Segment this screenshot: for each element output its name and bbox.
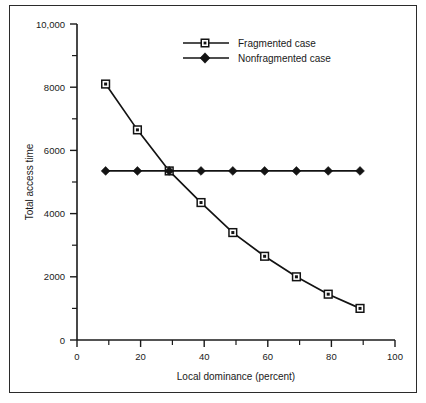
y-ticklabel: 6000	[44, 145, 65, 156]
x-axis-title: Local dominance (percent)	[177, 371, 295, 382]
diamond-marker-icon	[356, 167, 365, 176]
x-ticklabels: 0 20 40 60 80 100	[74, 351, 403, 362]
square-dot-marker-icon-dot	[204, 42, 207, 45]
square-dot-marker-icon-dot	[327, 293, 330, 296]
x-ticklabel: 0	[74, 351, 79, 362]
legend-entry-nonfragmented: Nonfragmented case	[183, 53, 331, 64]
diamond-marker-icon	[324, 167, 333, 176]
square-dot-marker-icon-dot	[231, 231, 234, 234]
x-ticklabel: 20	[135, 351, 146, 362]
chart-canvas: 0 2000 4000 6000 8000 10,000 0 20 40 60 …	[0, 0, 426, 403]
square-dot-marker-icon-dot	[359, 307, 362, 310]
diamond-marker-icon	[197, 167, 206, 176]
y-ticklabel: 0	[60, 335, 65, 346]
y-ticklabel: 10,000	[36, 19, 65, 30]
figure-container: 0 2000 4000 6000 8000 10,000 0 20 40 60 …	[0, 0, 426, 403]
legend-label-nonfragmented: Nonfragmented case	[238, 53, 331, 64]
series-fragmented	[101, 79, 365, 313]
diamond-marker-icon	[260, 167, 269, 176]
square-dot-marker-icon-dot	[295, 275, 298, 278]
square-dot-marker-icon-dot	[200, 201, 203, 204]
y-ticklabel: 2000	[44, 271, 65, 282]
square-dot-marker-icon-dot	[104, 83, 107, 86]
axes-group	[77, 24, 395, 340]
y-ticklabel: 8000	[44, 82, 65, 93]
x-ticklabel: 80	[326, 351, 337, 362]
series-layer	[101, 79, 365, 313]
series-nonfragmented	[101, 167, 364, 176]
square-dot-marker-icon-dot	[136, 128, 139, 131]
square-dot-marker-icon-dot	[263, 255, 266, 258]
y-ticklabel: 4000	[44, 208, 65, 219]
y-axis-title: Total access time	[24, 143, 35, 220]
diamond-marker-icon	[292, 167, 301, 176]
legend-label-fragmented: Fragmented case	[238, 38, 316, 49]
y-ticklabels: 0 2000 4000 6000 8000 10,000	[36, 19, 65, 346]
x-ticklabel: 100	[387, 351, 403, 362]
legend-entry-fragmented: Fragmented case	[183, 38, 316, 49]
series-line	[106, 84, 360, 308]
diamond-marker-icon	[133, 167, 142, 176]
legend: Fragmented case Nonfragmented case	[183, 38, 331, 64]
x-ticklabel: 60	[263, 351, 274, 362]
diamond-marker-icon	[200, 53, 210, 63]
diamond-marker-icon	[228, 167, 237, 176]
diamond-marker-icon	[101, 167, 110, 176]
x-ticklabel: 40	[199, 351, 210, 362]
